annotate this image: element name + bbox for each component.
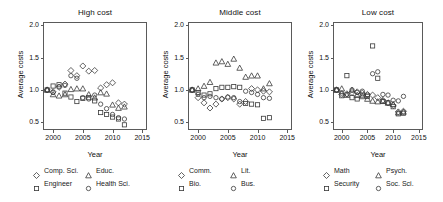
panel-1: High cost0.51.01.52.02000200520102015Ave… xyxy=(0,0,150,202)
data-point xyxy=(255,103,259,107)
data-point xyxy=(51,84,55,88)
data-point xyxy=(214,87,218,91)
data-point xyxy=(104,82,110,88)
legend-marker-circle-icon xyxy=(374,179,383,188)
data-point xyxy=(226,95,230,99)
data-point xyxy=(261,95,265,99)
data-point xyxy=(381,92,385,96)
data-point xyxy=(396,99,400,103)
data-point xyxy=(207,79,213,84)
legend-item-bio[interactable]: Bio. xyxy=(177,179,201,188)
data-point xyxy=(243,74,249,79)
legend-label: Engineer xyxy=(44,180,72,187)
legend-marker-triangle-icon xyxy=(84,166,93,175)
legend-item-soc-sci[interactable]: Soc. Sci. xyxy=(374,179,414,188)
data-point xyxy=(238,85,242,89)
legend-label: Comp. Sci. xyxy=(44,167,78,174)
data-point xyxy=(220,97,224,101)
legend-item-lit[interactable]: Lit. xyxy=(229,166,250,175)
legend-item-bus[interactable]: Bus. xyxy=(229,179,255,188)
data-point xyxy=(237,65,243,70)
data-point xyxy=(201,83,207,88)
data-point xyxy=(267,96,271,100)
data-point xyxy=(75,99,79,103)
data-point xyxy=(232,85,236,89)
legend-label: Security xyxy=(334,180,359,187)
legend-marker-triangle-icon xyxy=(374,166,383,175)
data-point xyxy=(255,73,261,78)
scatter-figure: High cost0.51.01.52.02000200520102015Ave… xyxy=(0,0,443,202)
data-point xyxy=(370,98,376,103)
data-point xyxy=(68,86,74,91)
data-points-layer xyxy=(145,0,300,202)
data-point xyxy=(99,110,103,114)
legend-item-health-sci[interactable]: Health Sci. xyxy=(84,179,130,188)
legend-marker-diamond-icon xyxy=(32,166,41,175)
data-point xyxy=(110,80,116,86)
legend-label: Psych. xyxy=(386,167,407,174)
data-point xyxy=(249,73,255,78)
panel-2: Middle cost0.51.01.52.02000200520102015A… xyxy=(145,0,295,202)
legend-item-security[interactable]: Security xyxy=(322,179,359,188)
data-point xyxy=(98,102,102,106)
data-point xyxy=(110,112,114,116)
data-point xyxy=(370,72,374,76)
legend-item-engineer[interactable]: Engineer xyxy=(32,179,72,188)
data-point xyxy=(213,60,219,65)
data-point xyxy=(74,86,80,91)
data-point xyxy=(214,95,218,99)
legend-item-comp-sci[interactable]: Comp. Sci. xyxy=(32,166,78,175)
data-point xyxy=(376,76,380,80)
data-point xyxy=(104,106,108,110)
data-point xyxy=(207,105,213,111)
data-point xyxy=(225,61,231,66)
data-point xyxy=(219,59,225,64)
data-points-layer xyxy=(290,0,443,202)
legend-label: Bus. xyxy=(241,180,255,187)
legend-item-math[interactable]: Math xyxy=(322,166,350,175)
legend-label: Health Sci. xyxy=(96,180,130,187)
data-point xyxy=(87,97,91,101)
legend-label: Math xyxy=(334,167,350,174)
data-point xyxy=(93,99,97,103)
data-point xyxy=(68,67,74,73)
legend-marker-circle-icon xyxy=(229,179,238,188)
data-point xyxy=(213,101,219,107)
data-point xyxy=(249,86,255,92)
data-point xyxy=(386,93,390,97)
data-point xyxy=(69,95,73,99)
data-point xyxy=(56,93,62,98)
data-point xyxy=(208,94,212,98)
data-point xyxy=(401,94,405,98)
legend-label: Bio. xyxy=(189,180,201,187)
data-point xyxy=(350,96,354,100)
data-point xyxy=(243,89,247,93)
data-point xyxy=(201,100,207,106)
data-point xyxy=(226,85,230,89)
data-point xyxy=(98,90,104,95)
data-point xyxy=(104,112,108,116)
legend-label: Comm. xyxy=(189,167,212,174)
panel-3: Low cost0.51.01.52.02000200520102015Aver… xyxy=(290,0,443,202)
legend-marker-square-icon xyxy=(32,179,41,188)
legend-item-comm[interactable]: Comm. xyxy=(177,166,212,175)
data-point xyxy=(80,86,86,91)
data-point xyxy=(92,67,98,73)
legend-item-educ[interactable]: Educ. xyxy=(84,166,114,175)
data-point xyxy=(267,81,273,86)
data-point xyxy=(376,70,380,74)
legend-marker-square-icon xyxy=(177,179,186,188)
data-point xyxy=(371,44,375,48)
data-point xyxy=(122,123,126,127)
legend-label: Lit. xyxy=(241,167,250,174)
legend-item-psych[interactable]: Psych. xyxy=(374,166,407,175)
legend-marker-diamond-icon xyxy=(177,166,186,175)
data-point xyxy=(339,86,345,91)
data-point xyxy=(202,95,206,99)
legend-marker-diamond-icon xyxy=(322,166,331,175)
data-point xyxy=(261,116,265,120)
legend-marker-square-icon xyxy=(322,179,331,188)
legend-marker-circle-icon xyxy=(84,179,93,188)
data-point xyxy=(231,56,237,61)
legend-label: Educ. xyxy=(96,167,114,174)
